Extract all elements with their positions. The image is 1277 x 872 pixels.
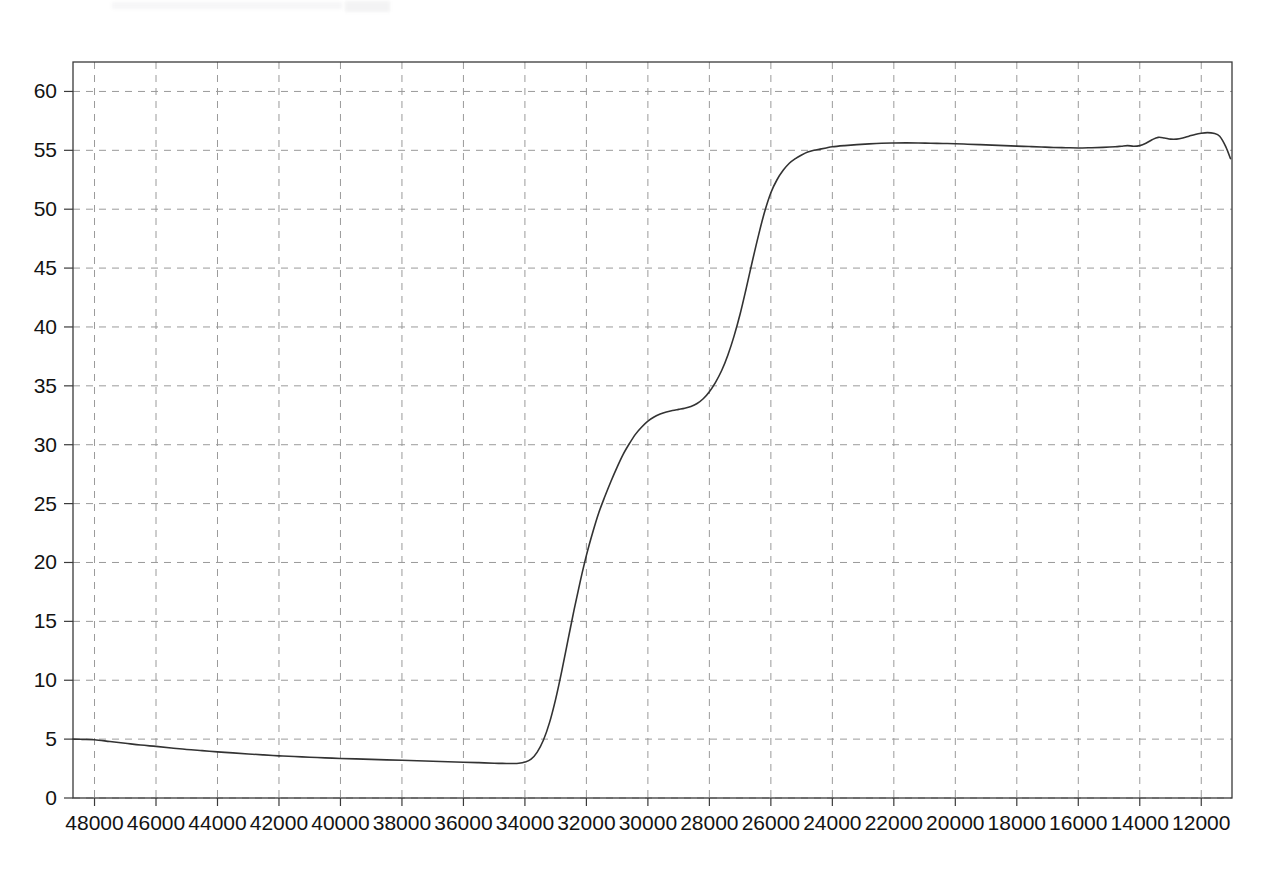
x-tick-label: 48000	[65, 811, 123, 834]
y-tick-label: 0	[45, 786, 57, 809]
x-tick-label: 16000	[1049, 811, 1107, 834]
x-tick-label: 18000	[988, 811, 1046, 834]
x-tick-label: 44000	[188, 811, 246, 834]
y-tick-label: 20	[34, 550, 57, 573]
x-tick-label: 14000	[1111, 811, 1169, 834]
y-tick-label: 45	[34, 256, 57, 279]
plot-background	[73, 62, 1232, 798]
x-tick-label: 32000	[557, 811, 615, 834]
x-tick-label: 36000	[434, 811, 492, 834]
x-tick-label: 30000	[619, 811, 677, 834]
y-tick-label: 10	[34, 668, 57, 691]
y-tick-label: 30	[34, 433, 57, 456]
y-axis-tick-labels: 051015202530354045505560	[34, 79, 57, 809]
y-tick-label: 25	[34, 492, 57, 515]
y-tick-label: 15	[34, 609, 57, 632]
x-tick-label: 26000	[742, 811, 800, 834]
x-axis-ticks	[95, 798, 1202, 806]
x-tick-label: 42000	[250, 811, 308, 834]
y-tick-label: 60	[34, 79, 57, 102]
y-tick-label: 35	[34, 374, 57, 397]
x-tick-label: 40000	[311, 811, 369, 834]
x-tick-label: 22000	[865, 811, 923, 834]
y-tick-label: 5	[45, 727, 57, 750]
chart-container: 4800046000440004200040000380003600034000…	[0, 0, 1277, 872]
spectrum-plot: 4800046000440004200040000380003600034000…	[0, 0, 1277, 872]
y-tick-label: 55	[34, 138, 57, 161]
x-tick-label: 24000	[803, 811, 861, 834]
y-tick-label: 40	[34, 315, 57, 338]
y-tick-label: 50	[34, 197, 57, 220]
x-axis-tick-labels: 4800046000440004200040000380003600034000…	[65, 811, 1230, 834]
x-tick-label: 38000	[373, 811, 431, 834]
x-tick-label: 46000	[127, 811, 185, 834]
x-tick-label: 34000	[496, 811, 554, 834]
x-tick-label: 12000	[1172, 811, 1230, 834]
y-axis-ticks	[64, 91, 73, 798]
x-tick-label: 28000	[680, 811, 738, 834]
x-tick-label: 20000	[926, 811, 984, 834]
